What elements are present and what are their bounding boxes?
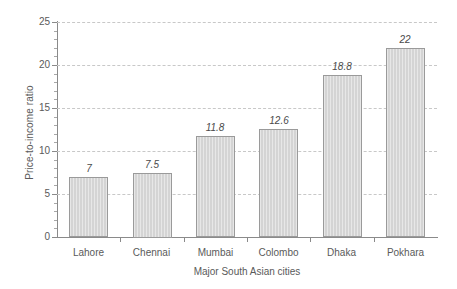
y-minor-tick-mark: [54, 99, 57, 100]
bar[interactable]: [259, 129, 298, 237]
y-minor-tick-mark: [54, 220, 57, 221]
bar-value-label: 18.8: [312, 61, 372, 72]
y-minor-tick-mark: [54, 160, 57, 161]
bar[interactable]: [386, 48, 425, 237]
y-minor-tick-mark: [54, 125, 57, 126]
bar[interactable]: [323, 75, 362, 237]
x-tick-label: Chennai: [120, 246, 183, 260]
x-tick-label: Pokhara: [374, 246, 437, 260]
y-minor-tick-mark: [54, 117, 57, 118]
y-tick-mark: [52, 151, 57, 152]
x-tick-mark: [310, 238, 311, 242]
gridline: [57, 151, 437, 152]
y-minor-tick-mark: [54, 142, 57, 143]
y-tick-mark: [52, 108, 57, 109]
y-minor-tick-mark: [54, 134, 57, 135]
y-axis-title: Price-to-income ratio: [21, 25, 39, 240]
y-tick-label: 15: [17, 103, 50, 113]
y-tick-label: 10: [17, 146, 50, 156]
y-tick-label: 20: [17, 60, 50, 70]
y-axis-line: [57, 21, 58, 238]
y-minor-tick-mark: [54, 177, 57, 178]
bar[interactable]: [69, 177, 108, 237]
x-tick-label: Lahore: [57, 246, 120, 260]
gridline: [57, 65, 437, 66]
y-minor-tick-mark: [54, 31, 57, 32]
y-minor-tick-mark: [54, 82, 57, 83]
x-tick-label: Dhaka: [310, 246, 373, 260]
y-tick-mark: [52, 237, 57, 238]
y-tick-mark: [52, 194, 57, 195]
y-minor-tick-mark: [54, 48, 57, 49]
y-minor-tick-mark: [54, 74, 57, 75]
y-tick-label: 25: [17, 17, 50, 27]
bar-value-label: 22: [375, 34, 435, 45]
bar[interactable]: [196, 136, 235, 237]
y-tick-label: 0: [17, 232, 50, 242]
gridline: [57, 108, 437, 109]
bar-value-label: 11.8: [185, 122, 245, 133]
x-axis-title: Major South Asian cities: [57, 266, 437, 278]
bar-chart: Price-to-income ratio 0510152025 77.511.…: [0, 0, 457, 289]
y-minor-tick-mark: [54, 39, 57, 40]
x-tick-label: Mumbai: [184, 246, 247, 260]
y-minor-tick-mark: [54, 203, 57, 204]
y-tick-mark: [52, 65, 57, 66]
y-minor-tick-mark: [54, 211, 57, 212]
bar-value-label: 7.5: [122, 159, 182, 170]
y-minor-tick-mark: [54, 168, 57, 169]
x-tick-label: Colombo: [247, 246, 310, 260]
y-minor-tick-mark: [54, 185, 57, 186]
bar-value-label: 12.6: [249, 115, 309, 126]
x-tick-mark: [374, 238, 375, 242]
bar-value-label: 7: [59, 163, 119, 174]
bar[interactable]: [133, 173, 172, 238]
x-tick-mark: [120, 238, 121, 242]
y-minor-tick-mark: [54, 56, 57, 57]
x-tick-mark: [247, 238, 248, 242]
gridline: [57, 22, 437, 23]
x-tick-mark: [184, 238, 185, 242]
gridline: [57, 194, 437, 195]
y-tick-label: 5: [17, 189, 50, 199]
y-tick-mark: [52, 22, 57, 23]
y-minor-tick-mark: [54, 228, 57, 229]
y-minor-tick-mark: [54, 91, 57, 92]
